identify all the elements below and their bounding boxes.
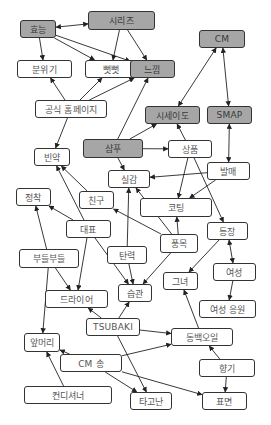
node-realize: 실감 (108, 170, 150, 188)
edge-shampoo-realize (118, 158, 124, 170)
edge-tsubaki-dryer (88, 308, 101, 318)
edge-series-hyoneung (56, 24, 88, 27)
edge-hyoneung-feeling (56, 35, 130, 61)
node-soft: 부들부들 (19, 249, 79, 268)
node-hyoneung: 효능 (20, 20, 56, 38)
node-smap: SMAP (207, 106, 252, 124)
edge-series-feeling (128, 30, 147, 60)
node-release: 발매 (207, 162, 250, 180)
edge-representative-settle (49, 206, 73, 220)
concept-diagram: 효능시리즈CM분위기뻣뻣느낌공식 홈페이지시세이도SMAP샴푸상품빈약발매실감정… (0, 0, 271, 425)
edge-woman-cheer (229, 281, 233, 300)
node-series: 시리즈 (88, 11, 155, 30)
node-label: 동백오일 (186, 331, 219, 344)
node-coating: 코팅 (140, 198, 212, 217)
node-she: 그녀 (163, 272, 198, 290)
node-representative: 대표 (66, 220, 111, 238)
node-label: 정착 (25, 191, 41, 204)
edge-appearance-woman (229, 240, 233, 263)
edge-cmsong-camellia (122, 344, 171, 355)
node-label: 친구 (88, 194, 104, 207)
edge-hyoneung-atmosphere (39, 38, 43, 60)
node-label: 실감 (121, 173, 137, 186)
node-label: 풍목 (171, 237, 187, 250)
node-scanty: 빈약 (34, 148, 70, 166)
node-cmsong: CM 송 (60, 354, 122, 372)
node-label: 습관 (127, 287, 143, 300)
edge-homepage-feeling (89, 78, 134, 100)
node-label: 여성 (226, 266, 242, 279)
edge-smap-release (229, 124, 230, 162)
node-feeling: 느낌 (130, 60, 175, 78)
edge-representative-dryer (78, 238, 87, 290)
node-label: 코팅 (168, 201, 184, 214)
node-appearance: 등장 (207, 222, 248, 240)
edge-volume-coating (177, 217, 178, 234)
node-label: 시리즈 (109, 14, 134, 27)
node-label: 등장 (219, 225, 235, 238)
node-label: TSUBAKI (93, 322, 133, 332)
node-label: CM 송 (78, 357, 104, 370)
node-tsubaki: TSUBAKI (86, 318, 140, 336)
edge-elasticity-habit (129, 264, 133, 284)
node-friend: 친구 (79, 191, 114, 209)
node-camellia: 동백오일 (171, 328, 233, 346)
edge-soft-settle (36, 206, 47, 249)
node-shampoo: 샴푸 (83, 139, 143, 158)
edge-camellia-she (184, 290, 199, 328)
node-label: CM (215, 34, 229, 44)
node-label: 대표 (80, 223, 96, 236)
node-dryer: 드라이어 (45, 290, 108, 308)
node-cm: CM (199, 30, 245, 48)
node-label: SMAP (217, 110, 243, 120)
node-settle: 정착 (16, 188, 51, 206)
node-woman: 여성 (213, 263, 256, 281)
node-label: 느낌 (144, 63, 160, 76)
node-label: 부들부들 (33, 252, 66, 265)
node-label: 드라이어 (60, 293, 93, 306)
node-label: 빈약 (44, 151, 60, 164)
node-label: 그녀 (172, 275, 188, 288)
node-label: 컨디셔너 (52, 389, 85, 402)
edge-friend-scanty (61, 166, 87, 191)
edge-soft-dryer (55, 268, 70, 290)
node-innate: 타고난 (130, 392, 172, 410)
node-bangs: 앞머리 (24, 333, 60, 352)
edge-tsubaki-habit (119, 302, 129, 318)
node-label: 표면 (216, 395, 232, 408)
node-label: 향기 (219, 362, 235, 375)
node-conditioner: 컨디셔너 (24, 386, 112, 404)
edge-series-stiff (113, 30, 119, 60)
edge-release-coating (190, 180, 216, 198)
edge-shampoo-feeling (118, 78, 148, 139)
node-label: 타고난 (139, 395, 164, 408)
node-homepage: 공식 홈페이지 (35, 100, 107, 118)
node-atmosphere: 분위기 (17, 60, 72, 78)
node-product: 상품 (168, 140, 212, 158)
edge-homepage-scanty (56, 118, 68, 148)
edge-product-coating (178, 158, 188, 198)
node-label: 상품 (182, 143, 198, 156)
node-label: 앞머리 (30, 336, 55, 349)
node-label: 여성 응원 (210, 303, 246, 316)
node-volume: 풍목 (160, 234, 198, 253)
edge-product-shiseido (177, 124, 185, 140)
edge-scent-surface (225, 377, 226, 392)
edge-homepage-atmosphere (50, 78, 65, 100)
node-label: 탄력 (119, 249, 135, 262)
edge-cm-smap (223, 48, 229, 106)
edge-scent-camellia (209, 346, 219, 359)
edge-shampoo-shiseido (130, 124, 157, 139)
edge-cm-shiseido (178, 48, 216, 106)
node-cheer: 여성 응원 (199, 300, 256, 318)
node-scent: 향기 (199, 359, 255, 377)
node-label: 효능 (30, 23, 46, 36)
node-label: 시세이도 (156, 109, 189, 122)
node-label: 공식 홈페이지 (45, 103, 97, 116)
edge-release-realize (150, 173, 207, 178)
node-label: 뻣뻣 (103, 63, 119, 76)
node-elasticity: 탄력 (107, 246, 147, 264)
edge-tsubaki-camellia (140, 330, 171, 333)
node-surface: 표면 (202, 392, 247, 410)
node-shiseido: 시세이도 (145, 106, 200, 124)
